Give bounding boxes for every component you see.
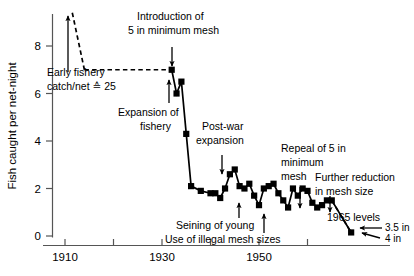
- annotation-repeal-line1: Repeal of 5 in: [281, 142, 346, 154]
- annotation-postwar-line2: expansion: [196, 134, 244, 146]
- mesh-4in-arrow: [362, 233, 380, 238]
- annotation-mesh-3-5in: 3.5 in: [385, 222, 409, 233]
- annotation-introduction-line2: 5 in minimum mesh: [128, 24, 219, 36]
- data-point-marker: [246, 181, 252, 187]
- annotation-further-line1: Further reduction: [315, 171, 395, 183]
- annotation-introduction-line1: Introduction of: [137, 10, 204, 22]
- data-point-marker: [217, 195, 223, 201]
- data-point-marker: [222, 185, 228, 191]
- data-point-marker: [173, 90, 179, 96]
- data-point-marker: [178, 79, 184, 85]
- data-point-marker: [183, 131, 189, 137]
- data-point-marker: [304, 188, 310, 194]
- annotation-seining: Seining of young: [176, 219, 254, 231]
- annotation-early-fishery-line2: catch/net ≙ 25: [47, 80, 116, 92]
- y-tick-label-4: 4: [35, 135, 42, 147]
- annotation-1965-levels: 1965 levels: [327, 211, 380, 223]
- annotation-repeal-line2: minimum: [281, 156, 324, 168]
- x-tick-label-1930: 1930: [149, 251, 175, 263]
- annotation-mesh-4in: 4 in: [385, 233, 401, 244]
- fishery-catch-line-chart: 8 6 4 2 0 Fish caught per net-night 1910…: [0, 0, 414, 276]
- y-tick-label-6: 6: [35, 88, 41, 100]
- data-point-marker: [280, 197, 286, 203]
- annotation-early-fishery-line1: Early fishery: [47, 66, 106, 78]
- data-point-marker: [256, 202, 262, 208]
- y-tick-label-2: 2: [35, 183, 41, 195]
- data-point-marker: [285, 204, 291, 210]
- data-point-marker: [232, 166, 238, 172]
- y-axis-title: Fish caught per net-night: [6, 62, 18, 190]
- y-tick-label-0: 0: [35, 230, 41, 242]
- data-point-marker: [251, 193, 257, 199]
- data-point-marker: [188, 183, 194, 189]
- annotation-expansion-line1: Expansion of: [118, 106, 179, 118]
- data-point-marker: [275, 190, 281, 196]
- annotation-texts: Early fishery catch/net ≙ 25 Introductio…: [47, 10, 409, 245]
- x-tick-label-1950: 1950: [246, 251, 272, 263]
- annotation-expansion-line2: fishery: [140, 120, 172, 132]
- data-point-marker: [198, 188, 204, 194]
- y-tick-label-8: 8: [35, 40, 41, 52]
- annotation-repeal-line3: mesh: [281, 170, 307, 182]
- data-point-marker: [290, 185, 296, 191]
- annotation-illegal-mesh: Use of illegal mesh sizes: [165, 233, 281, 245]
- series-line-2: [72, 13, 84, 70]
- annotation-further-line2: in mesh size: [315, 185, 374, 197]
- x-tick-label-1910: 1910: [52, 251, 78, 263]
- y-axis: 8 6 4 2 0 Fish caught per net-night: [6, 14, 53, 242]
- chart-figure: 8 6 4 2 0 Fish caught per net-night 1910…: [0, 0, 414, 276]
- data-point-marker: [270, 181, 276, 187]
- annotation-postwar-line1: Post-war: [202, 120, 244, 132]
